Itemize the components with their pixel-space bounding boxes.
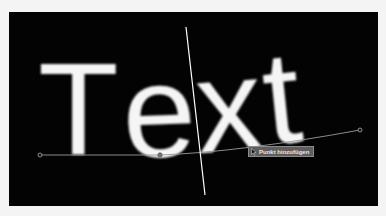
text-on-path-scene[interactable]: T e x t — [0, 0, 386, 216]
tooltip-label: Punkt hinzufügen — [259, 148, 309, 156]
glyph-x: x — [191, 30, 267, 181]
glyph-e: e — [120, 36, 199, 185]
glyph-T: T — [38, 36, 119, 183]
path-start-handle[interactable] — [38, 153, 42, 157]
path-end-handle[interactable] — [358, 128, 362, 132]
pen-add-point-cursor-icon — [251, 148, 257, 156]
path-anchor-point[interactable] — [158, 153, 162, 157]
add-point-tooltip: Punkt hinzufügen — [248, 146, 314, 157]
